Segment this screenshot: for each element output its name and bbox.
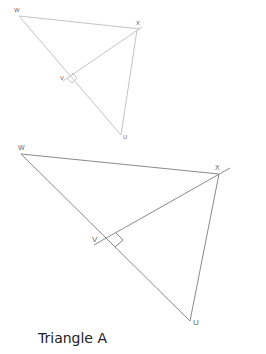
large-altitude-xv [94,168,230,245]
figure-caption: Triangle A [38,330,107,346]
small-label-v: V [60,75,64,81]
small-label-w: W [14,7,20,13]
triangle-diagram: W X V U W X V U [0,0,266,354]
large-side-wx [21,154,219,174]
large-triangle [21,154,230,321]
large-label-u: U [193,318,199,327]
large-label-w: W [18,144,25,151]
small-label-x: X [136,20,140,26]
large-side-xu [190,174,219,321]
small-triangle [19,16,142,135]
small-side-xu [121,30,137,135]
small-side-wx [19,16,140,29]
large-side-wu [21,154,190,321]
large-label-x: X [215,164,220,171]
large-right-angle-marker [108,233,123,247]
large-label-v: V [92,235,98,244]
triangle-figure-canvas: W X V U W X V U Triangle A [0,0,266,354]
small-label-u: U [123,134,127,140]
small-side-wu [19,16,121,135]
